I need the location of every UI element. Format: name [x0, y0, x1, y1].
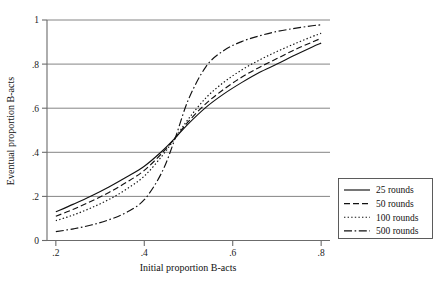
y-tick-label: .2 — [32, 192, 39, 202]
y-tick-label: 1 — [34, 15, 39, 25]
x-tick-label: .8 — [318, 248, 325, 258]
x-tick-label: .2 — [52, 248, 59, 258]
chart-page: 0.2.4.6.81 .2.4.6.8 Initial proportion B… — [0, 0, 439, 288]
y-axis-ticks: 0.2.4.6.81 — [32, 15, 47, 246]
legend-label: 25 rounds — [376, 185, 414, 195]
x-axis-ticks: .2.4.6.8 — [52, 241, 325, 259]
y-tick-label: .8 — [32, 60, 39, 70]
legend: 25 rounds50 rounds100 rounds500 rounds — [339, 179, 433, 239]
y-axis-title: Eventual proportion B-acts — [5, 77, 16, 185]
series-line-25-rounds — [56, 43, 321, 212]
y-tick-label: .4 — [32, 148, 39, 158]
legend-label: 500 rounds — [376, 226, 419, 236]
x-tick-label: .6 — [229, 248, 236, 258]
legend-label: 100 rounds — [376, 213, 419, 223]
series-line-50-rounds — [56, 38, 321, 216]
legend-label: 50 rounds — [376, 199, 414, 209]
line-chart: 0.2.4.6.81 .2.4.6.8 Initial proportion B… — [0, 0, 439, 288]
x-tick-label: .4 — [141, 248, 148, 258]
y-tick-label: 0 — [34, 236, 39, 246]
series-group — [56, 25, 321, 232]
y-tick-label: .6 — [32, 104, 39, 114]
y-gridlines — [47, 20, 330, 241]
x-axis-title: Initial proportion B-acts — [140, 262, 237, 273]
